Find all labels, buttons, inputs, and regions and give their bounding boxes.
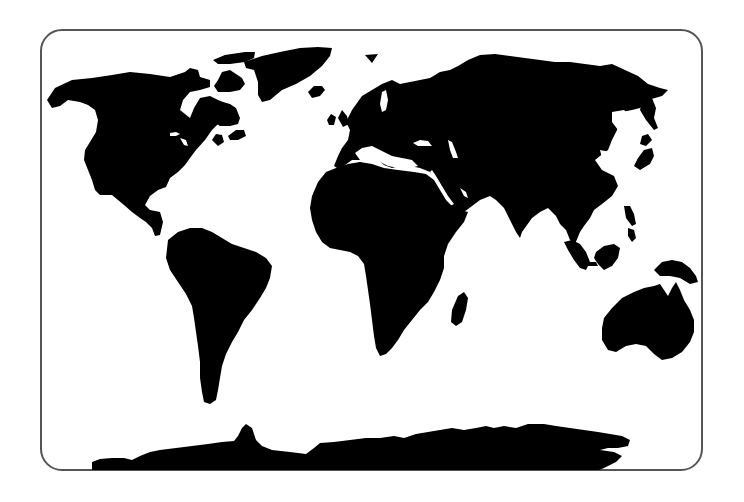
world-map bbox=[0, 0, 744, 502]
landmass-british-isles bbox=[327, 110, 349, 127]
landmass-madagascar bbox=[451, 292, 468, 326]
landmass-iceland bbox=[308, 86, 325, 98]
landmass-north-america bbox=[47, 68, 232, 236]
landmass-south-america bbox=[166, 228, 272, 404]
landmass-svalbard bbox=[365, 54, 378, 63]
landmass-antarctica bbox=[92, 424, 630, 472]
landmass-sakhalin bbox=[640, 98, 658, 130]
landmass-japan bbox=[634, 134, 654, 170]
landmass-new-guinea bbox=[654, 260, 698, 284]
landmass-australia bbox=[602, 282, 694, 360]
